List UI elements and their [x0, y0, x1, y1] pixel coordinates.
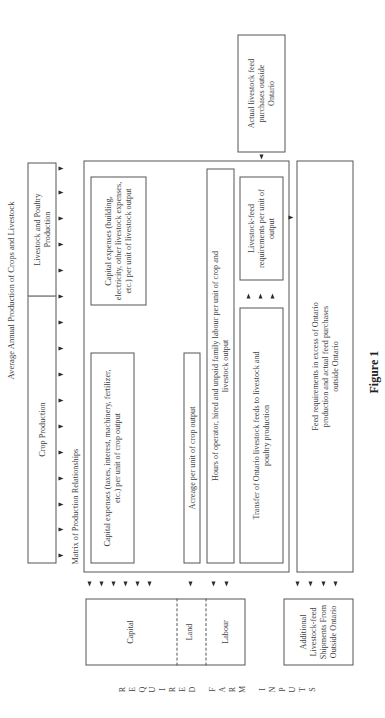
label-letter: P: [277, 684, 286, 694]
arrow-left-icon: [259, 154, 263, 159]
crop-production-label: Crop Production: [37, 402, 47, 456]
transfer-text: Transfer of Ontario livestock feeds to l…: [251, 345, 271, 525]
arrow-right-icon: [270, 293, 274, 298]
additional-shipments-text: Additional Livestock-feed Shipments From…: [298, 600, 338, 664]
arrow-down-icon: [58, 476, 63, 480]
label-letter: I: [257, 684, 266, 694]
figure-caption: Figure 1: [366, 350, 381, 393]
diagram-title: Average Annual Production of Crops and L…: [5, 150, 15, 430]
actual-purchases-text: Actual livestock feed purchases outside …: [246, 53, 276, 133]
arrow-down-icon: [58, 166, 63, 170]
arrow-left-icon: [123, 581, 127, 586]
capital-input-label: Capital: [125, 598, 135, 665]
diagram-canvas: Average Annual Production of Crops and L…: [0, 0, 385, 718]
label-letter: R: [227, 684, 236, 694]
arrow-down-icon: [58, 527, 63, 531]
label-letter: T: [297, 684, 306, 694]
label-letter: S: [307, 684, 316, 694]
arrow-down-icon: [58, 424, 63, 428]
arrow-left-icon: [135, 581, 139, 586]
capital-crop-text: Capital expenses (taxes, interest, machi…: [102, 363, 122, 553]
arrow-left-icon: [321, 581, 325, 586]
label-letter: Q: [137, 684, 146, 694]
acreage-cell: Acreage per unit of crop output: [183, 352, 200, 563]
arrow-right-icon: [258, 293, 262, 298]
label-letter: A: [217, 684, 226, 694]
arrow-left-icon: [333, 581, 337, 586]
matrix-label: Matrix of Production Relationships: [70, 404, 80, 564]
label-letter: U: [287, 684, 296, 694]
excess-feed-box: Feed requirements in excess of Ontario p…: [296, 160, 353, 572]
capital-livestock-cell: Capital expenses (building, electricity,…: [90, 176, 146, 305]
arrow-down-icon: [288, 215, 293, 219]
capital-crop-cell: Capital expenses (taxes, interest, machi…: [90, 352, 134, 563]
land-labour-divider: [205, 598, 206, 665]
acreage-text: Acreage per unit of crop output: [187, 406, 197, 509]
label-letter: E: [177, 684, 186, 694]
arrow-left-icon: [224, 581, 228, 586]
arrow-left-icon: [87, 581, 91, 586]
feed-requirements-cell: Livestock-feed requirements per unit of …: [239, 176, 283, 280]
capital-livestock-text: Capital expenses (building, electricity,…: [103, 181, 133, 301]
labour-hours-cell: Hours of operator, hired and unpaid fami…: [206, 168, 234, 563]
transfer-cell: Transfer of Ontario livestock feeds to l…: [239, 307, 283, 563]
label-letter: D: [187, 684, 196, 694]
arrow-down-icon: [58, 294, 63, 298]
label-letter: U: [147, 684, 156, 694]
arrow-left-icon: [147, 581, 151, 586]
arrow-down-icon: [58, 502, 63, 506]
feed-requirements-text: Livestock-feed requirements per unit of …: [246, 183, 276, 273]
additional-shipments-box: Additional Livestock-feed Shipments From…: [283, 598, 353, 665]
label-letter: N: [267, 684, 276, 694]
livestock-production-label: Livestock and Poultry Production: [32, 184, 52, 274]
arrow-down-icon: [58, 346, 63, 350]
label-letter: M: [237, 684, 246, 694]
actual-purchases-box: Actual livestock feed purchases outside …: [237, 34, 285, 152]
label-letter: F: [207, 684, 216, 694]
arrow-down-icon: [58, 372, 63, 376]
labour-hours-text: Hours of operator, hired and unpaid fami…: [210, 236, 230, 496]
arrow-down-icon: [58, 450, 63, 454]
arrow-left-icon: [308, 581, 312, 586]
arrow-left-icon: [211, 581, 215, 586]
arrow-right-icon: [246, 293, 250, 298]
arrow-down-icon: [58, 553, 63, 557]
labour-input-label: Labour: [220, 598, 230, 665]
arrow-down-icon: [58, 190, 63, 194]
land-input-label: Land: [184, 598, 194, 665]
label-letter: R: [117, 684, 126, 694]
label-letter: E: [127, 684, 136, 694]
livestock-production-box: Livestock and Poultry Production: [27, 162, 56, 296]
crop-production-box: Crop Production: [27, 295, 56, 563]
arrow-left-icon: [111, 581, 115, 586]
capital-land-divider: [176, 598, 177, 665]
arrow-down-icon: [58, 320, 63, 324]
arrow-down-icon: [58, 216, 63, 220]
arrow-left-icon: [295, 581, 299, 586]
label-letter: R: [167, 684, 176, 694]
arrow-down-icon: [58, 242, 63, 246]
arrow-left-icon: [188, 581, 192, 586]
excess-feed-text: Feed requirements in excess of Ontario p…: [310, 296, 340, 436]
arrow-down-icon: [58, 398, 63, 402]
arrow-down-icon: [58, 268, 63, 272]
arrow-left-icon: [99, 581, 103, 586]
label-letter: I: [157, 684, 166, 694]
